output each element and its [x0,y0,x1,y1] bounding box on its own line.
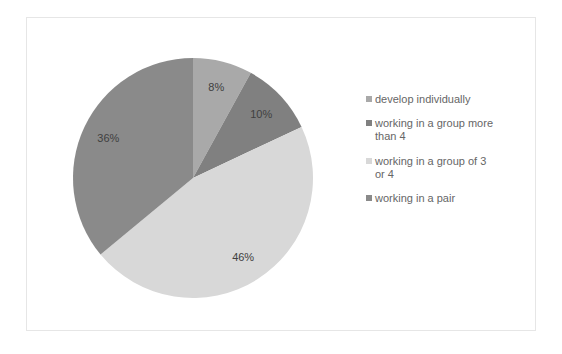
legend-swatch-icon [366,158,372,164]
legend-label: develop individually [375,93,470,106]
legend-swatch-icon [366,120,372,126]
legend: develop individually working in a group … [366,93,536,216]
slice-label: 36% [97,132,119,144]
legend-item-develop-individually: develop individually [366,93,536,106]
legend-label: working in a group of 3 or 4 [375,155,495,181]
legend-label: working in a pair [375,192,455,205]
slice-label: 10% [250,108,272,120]
legend-item-pair: working in a pair [366,192,536,205]
legend-swatch-icon [366,96,372,102]
legend-label: working in a group more than 4 [375,117,495,143]
slice-label: 8% [208,81,224,93]
slice-label: 46% [232,251,254,263]
legend-swatch-icon [366,195,372,201]
legend-item-group-more-than-4: working in a group more than 4 [366,117,536,143]
legend-item-group-of-3-or-4: working in a group of 3 or 4 [366,155,536,181]
